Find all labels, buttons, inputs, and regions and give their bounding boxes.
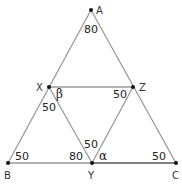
- point-y: [90, 161, 94, 165]
- angle-y-alpha: α: [99, 149, 107, 163]
- label-point-z: Z: [139, 82, 146, 93]
- point-x: [47, 85, 51, 89]
- point-c: [174, 161, 178, 165]
- label-point-c: C: [172, 170, 179, 181]
- angle-c: 50: [152, 150, 166, 163]
- angle-x-beta: β: [56, 87, 63, 101]
- angle-y-left: 80: [69, 150, 83, 163]
- angle-y-top: 50: [84, 138, 98, 151]
- angle-a: 80: [84, 23, 98, 36]
- point-b: [6, 161, 10, 165]
- label-point-y: Y: [87, 170, 95, 181]
- label-point-b: B: [4, 170, 11, 181]
- triangle-diagram: A X Z B Y C 80 β 50 50 50 80 50 α 50: [0, 0, 182, 184]
- label-point-x: X: [36, 82, 43, 93]
- angle-x-lower: 50: [42, 101, 56, 114]
- angle-b: 50: [15, 150, 29, 163]
- angle-z: 50: [113, 88, 127, 101]
- label-point-a: A: [96, 5, 103, 16]
- point-a: [89, 8, 93, 12]
- point-z: [131, 85, 135, 89]
